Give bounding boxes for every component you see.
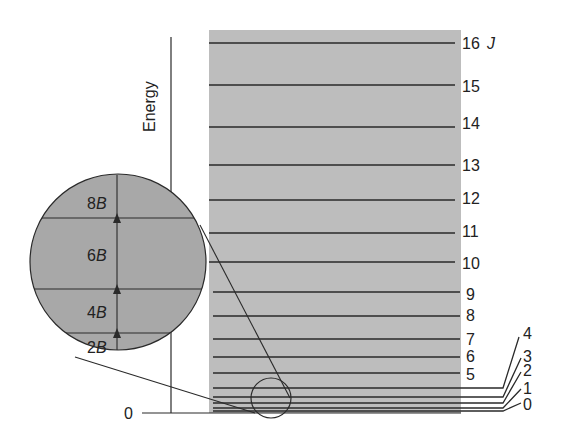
zero-label: 0	[124, 405, 133, 422]
label-j11: 11	[462, 223, 479, 240]
gap-label-2b: 2B	[87, 339, 107, 356]
label-j0: 0	[523, 396, 532, 413]
label-j6: 6	[466, 348, 475, 365]
gap-label-4b: 4B	[87, 304, 107, 321]
label-j1: 1	[523, 380, 532, 397]
gap-label-8b: 8B	[87, 195, 107, 212]
energy-band	[209, 30, 461, 413]
gap-label-6b: 6B	[87, 247, 107, 264]
label-j7: 7	[466, 331, 475, 348]
magnifier	[20, 170, 220, 357]
label-j8: 8	[466, 307, 475, 324]
label-j2: 2	[523, 362, 532, 379]
label-j12: 12	[462, 190, 480, 207]
label-j15: 15	[462, 78, 480, 95]
label-j4: 4	[523, 325, 532, 342]
energy-axis-label: Energy	[141, 81, 158, 132]
label-j10: 10	[462, 255, 480, 272]
label-j16: 16	[462, 35, 480, 52]
label-j13: 13	[462, 157, 480, 174]
rotational-energy-level-diagram: 0 Energy 16 J 15 14 13 12 11 10 9 8 7 6 …	[0, 0, 566, 447]
label-j9: 9	[466, 286, 475, 303]
label-j5: 5	[466, 366, 475, 383]
label-j14: 14	[462, 115, 480, 132]
label-j-symbol: J	[486, 35, 496, 52]
